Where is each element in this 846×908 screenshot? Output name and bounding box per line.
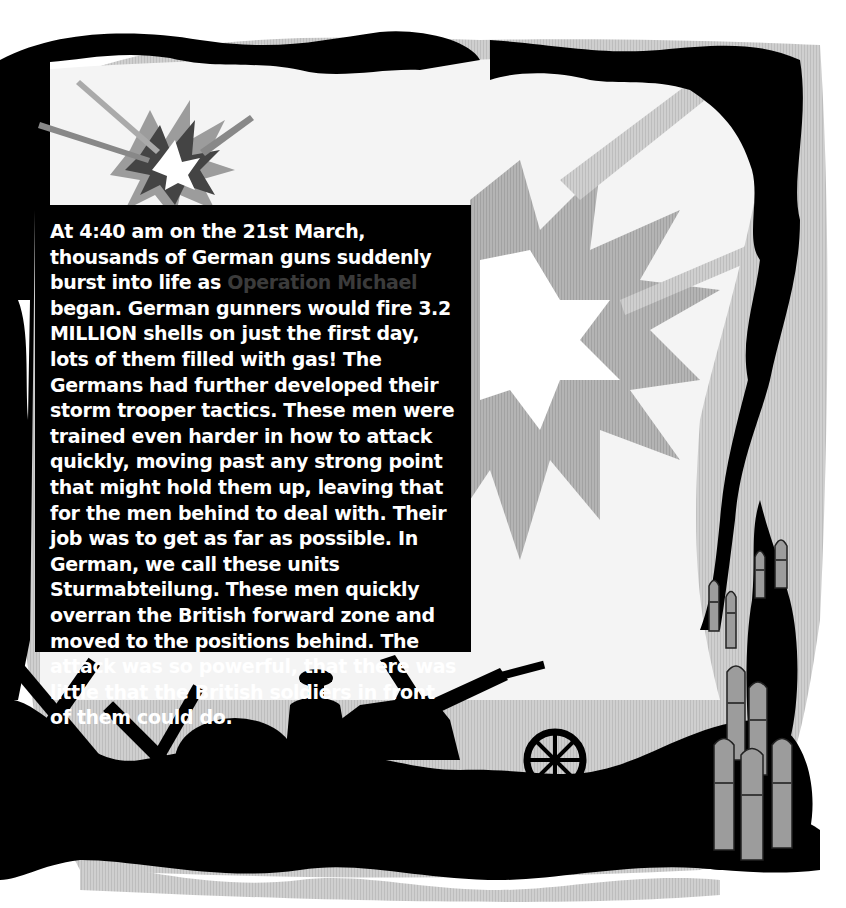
story-text-box: At 4:40 am on the 21st March, thousands … [35, 205, 471, 652]
story-paragraph: At 4:40 am on the 21st March, thousands … [50, 219, 461, 731]
story-text-after: began. German gunners would fire 3.2 MIL… [50, 297, 456, 729]
operation-michael-highlight: Operation Michael [227, 271, 417, 293]
illustration-canvas: At 4:40 am on the 21st March, thousands … [0, 0, 846, 908]
